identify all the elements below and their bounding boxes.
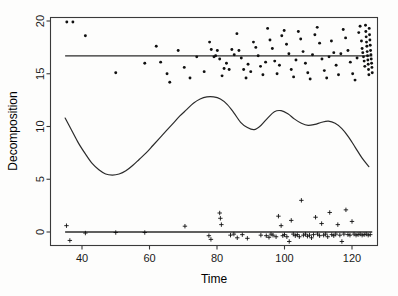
observed-point-marker (361, 47, 364, 50)
y-tick-label: 20 (34, 15, 46, 27)
observed-point-marker (276, 72, 279, 75)
observed-point-marker (362, 55, 365, 58)
observed-point-marker (328, 55, 331, 58)
observed-point-marker (361, 51, 364, 54)
observed-point-marker (359, 25, 362, 28)
observed-point-marker (290, 68, 293, 71)
observed-point-marker (304, 62, 307, 65)
x-axis-title: Time (201, 272, 228, 286)
observed-point-marker (84, 34, 87, 37)
observed-point-marker (225, 62, 228, 65)
observed-point-marker (364, 30, 367, 33)
observed-point-marker (273, 60, 276, 63)
observed-point-marker (228, 68, 231, 71)
observed-point-marker (278, 64, 281, 67)
observed-point-marker (366, 50, 369, 53)
observed-point-marker (313, 33, 316, 36)
observed-point-marker (240, 56, 243, 59)
observed-point-marker (349, 61, 352, 64)
observed-point-marker (369, 44, 372, 47)
x-tick-label: 120 (343, 252, 361, 264)
observed-point-marker (367, 73, 370, 76)
observed-point-marker (363, 60, 366, 63)
observed-point-marker (302, 50, 305, 53)
observed-point-marker (245, 77, 248, 80)
observed-point-marker (65, 21, 68, 24)
y-tick-label: 10 (34, 120, 46, 132)
observed-point-marker (311, 53, 314, 56)
observed-point-marker (367, 68, 370, 71)
observed-point-marker (177, 49, 180, 52)
observed-point-marker (318, 42, 321, 45)
y-tick-label: 15 (34, 68, 46, 80)
x-tick-label: 40 (76, 252, 88, 264)
observed-point-marker (323, 69, 326, 72)
observed-point-marker (218, 58, 221, 61)
observed-point-marker (325, 77, 328, 80)
observed-point-marker (297, 30, 300, 33)
observed-point-marker (306, 71, 309, 74)
figure-background (0, 0, 398, 296)
observed-point-marker (344, 36, 347, 39)
observed-point-marker (195, 55, 198, 58)
observed-point-marker (183, 66, 186, 69)
y-tick-label: 0 (34, 229, 46, 235)
observed-point-marker (364, 24, 367, 27)
observed-point-marker (337, 73, 340, 76)
observed-point-marker (71, 21, 74, 24)
observed-point-marker (321, 58, 324, 61)
observed-point-marker (287, 52, 290, 55)
observed-point-marker (252, 41, 255, 44)
observed-point-marker (257, 54, 260, 57)
observed-point-marker (370, 66, 373, 69)
observed-point-marker (366, 59, 369, 62)
observed-point-marker (360, 40, 363, 43)
y-tick-label: 5 (34, 176, 46, 182)
observed-point-marker (155, 45, 158, 48)
observed-point-marker (216, 49, 219, 52)
observed-point-marker (368, 33, 371, 36)
observed-point-marker (369, 53, 372, 56)
observed-point-marker (271, 47, 274, 50)
observed-point-marker (210, 48, 213, 51)
observed-point-marker (189, 77, 192, 80)
observed-point-marker (285, 43, 288, 46)
observed-point-marker (221, 74, 224, 77)
observed-point-marker (354, 79, 357, 82)
observed-point-marker (371, 71, 374, 74)
observed-point-marker (237, 49, 240, 52)
observed-point-marker (261, 73, 264, 76)
observed-point-marker (259, 65, 262, 68)
observed-point-marker (208, 41, 211, 44)
observed-point-marker (368, 39, 371, 42)
x-tick-label: 60 (143, 252, 155, 264)
observed-point-marker (249, 70, 252, 73)
observed-point-marker (365, 35, 368, 38)
observed-point-marker (280, 34, 283, 37)
plot-canvas: 406080100120 05101520 Time Decomposition (0, 0, 398, 296)
observed-point-marker (367, 63, 370, 66)
observed-point-marker (168, 81, 171, 84)
observed-point-marker (370, 58, 373, 61)
observed-point-marker (242, 68, 245, 71)
x-tick-label: 80 (211, 252, 223, 264)
observed-point-marker (166, 72, 169, 75)
observed-point-marker (366, 54, 369, 57)
observed-point-marker (347, 49, 350, 52)
observed-point-marker (342, 28, 345, 31)
observed-point-marker (223, 67, 226, 70)
observed-point-marker (264, 61, 267, 64)
observed-point-marker (269, 39, 272, 42)
observed-point-marker (309, 78, 312, 81)
observed-point-marker (230, 48, 233, 51)
observed-point-marker (356, 56, 359, 59)
observed-point-marker (233, 53, 236, 56)
observed-point-marker (369, 49, 372, 52)
observed-point-marker (114, 71, 117, 74)
observed-point-marker (357, 31, 360, 34)
y-axis-title: Decomposition (6, 91, 20, 170)
observed-point-marker (254, 46, 257, 49)
observed-point-marker (332, 51, 335, 54)
observed-point-marker (370, 62, 373, 65)
decomposition-plot-figure: 406080100120 05101520 Time Decomposition (0, 0, 398, 296)
